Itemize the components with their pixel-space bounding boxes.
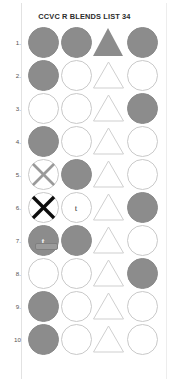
empty-circle-icon [28,258,59,289]
shape-cell[interactable] [92,26,125,59]
row-number: 3. [5,106,21,112]
shape-cell[interactable]: t [59,191,92,224]
shape-cell[interactable] [92,257,125,290]
empty-circle-icon [127,126,158,157]
row-number: 9. [5,304,21,310]
shape-cell[interactable] [125,59,158,92]
row-number: 1. [5,40,21,46]
empty-triangle-icon [93,259,124,287]
shape-cell[interactable] [59,257,92,290]
shape-cell[interactable]: t [26,224,59,257]
empty-circle-icon [61,126,92,157]
shape-cell[interactable] [125,125,158,158]
shape-cell[interactable] [59,323,92,356]
shape-cell[interactable] [59,92,92,125]
shape-cell[interactable] [26,59,59,92]
shape-cell[interactable] [92,158,125,191]
shape-cell[interactable] [59,59,92,92]
shape-cell[interactable] [125,26,158,59]
tooltip-overlay [35,243,58,250]
empty-circle-icon [61,60,92,91]
row-number: 2. [5,73,21,79]
empty-triangle-icon [93,226,124,254]
shape-cell[interactable] [125,224,158,257]
shape-cell[interactable] [92,92,125,125]
shape-cell[interactable] [92,59,125,92]
filled-circle-icon [28,60,59,91]
empty-circle-icon [127,291,158,322]
empty-circle-icon [28,93,59,124]
worksheet-row: 9. [0,290,169,323]
shape-cell[interactable] [125,290,158,323]
empty-triangle-icon [93,292,124,320]
empty-circle-icon [61,93,92,124]
shape-cell[interactable] [26,158,59,191]
empty-triangle-icon [93,61,124,89]
row-number: 8. [5,271,21,277]
worksheet-row: 10 [0,323,169,356]
shape-cell[interactable] [92,191,125,224]
row-number: 4. [5,139,21,145]
filled-circle-icon [127,258,158,289]
empty-triangle-icon [93,94,124,122]
filled-circle-icon [127,192,158,223]
shape-cell[interactable] [59,26,92,59]
empty-circle-icon [61,258,92,289]
empty-circle-icon [28,192,59,223]
worksheet-row: 2. [0,59,169,92]
filled-triangle-icon [93,28,123,56]
shape-cell[interactable] [125,257,158,290]
worksheet-rows: 1.2.3.4.5.6.t7.t8.9.10 [0,26,169,356]
shape-cell[interactable] [26,323,59,356]
filled-circle-icon [28,324,59,355]
filled-circle-icon [28,126,59,157]
worksheet-row: 4. [0,125,169,158]
row-number: 5. [5,172,21,178]
filled-circle-icon [127,27,158,58]
shape-cell[interactable] [92,290,125,323]
shape-cell[interactable] [59,125,92,158]
shape-cell[interactable] [92,224,125,257]
shape-cell[interactable] [59,224,92,257]
shape-cell[interactable] [92,125,125,158]
empty-circle-icon [61,324,92,355]
shape-cell[interactable] [125,323,158,356]
shape-cell[interactable] [59,290,92,323]
empty-triangle-icon [93,325,124,353]
empty-circle-icon [127,60,158,91]
empty-circle-icon [127,159,158,190]
empty-triangle-icon [93,193,124,221]
shape-cell[interactable] [59,158,92,191]
empty-circle-icon [127,324,158,355]
shape-cell[interactable] [26,26,59,59]
shape-cell[interactable] [92,323,125,356]
empty-triangle-icon [93,160,124,188]
worksheet-page: CCVC R BLENDS LIST 34 1.2.3.4.5.6.t7.t8.… [0,0,169,382]
shape-cell[interactable] [26,257,59,290]
row-number: 6. [5,205,21,211]
filled-circle-icon [28,27,59,58]
worksheet-row: 8. [0,257,169,290]
worksheet-row: 6.t [0,191,169,224]
shape-cell[interactable] [26,290,59,323]
cell-letter: t [59,191,93,224]
filled-circle-icon [61,159,92,190]
worksheet-row: 1. [0,26,169,59]
shape-cell[interactable] [26,125,59,158]
empty-circle-icon [61,291,92,322]
shape-cell[interactable] [26,92,59,125]
shape-cell[interactable] [125,92,158,125]
row-number: 10 [5,337,21,343]
worksheet-row: 3. [0,92,169,125]
filled-circle-icon [61,27,92,58]
worksheet-row: 5. [0,158,169,191]
filled-circle-icon [61,225,92,256]
empty-circle-icon [28,159,59,190]
row-number: 7. [5,238,21,244]
filled-circle-icon [127,93,158,124]
shape-cell[interactable] [125,191,158,224]
empty-circle-icon [127,225,158,256]
shape-cell[interactable] [125,158,158,191]
cell-letter: t [26,224,60,257]
shape-cell[interactable] [26,191,59,224]
